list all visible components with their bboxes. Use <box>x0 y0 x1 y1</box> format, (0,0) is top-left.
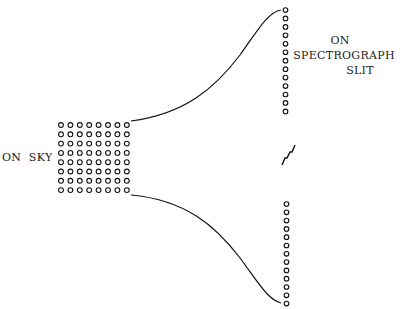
sky-fiber-circle <box>96 151 101 156</box>
slit-fiber-circle <box>283 58 288 63</box>
sky-fiber-circle <box>87 178 92 183</box>
sky-fiber-circle <box>106 160 111 165</box>
sky-fiber-circle <box>106 123 111 128</box>
upper-fiber-bundle-curve <box>131 10 281 121</box>
slit-fiber-circle <box>284 268 289 273</box>
sky-fiber-circle <box>77 188 82 193</box>
slit-fiber-circle <box>283 50 288 55</box>
slit-fiber-circle <box>284 210 289 215</box>
slit-fiber-circle <box>284 235 289 240</box>
sky-fiber-grid <box>59 123 130 193</box>
break-mark <box>282 145 295 165</box>
slit-fiber-circle <box>283 42 288 47</box>
sky-fiber-circle <box>68 160 73 165</box>
sky-fiber-circle <box>124 132 129 137</box>
slit-fiber-circle <box>284 276 289 281</box>
slit-fiber-circle <box>283 92 288 97</box>
sky-fiber-circle <box>96 178 101 183</box>
sky-fiber-circle <box>59 151 64 156</box>
sky-fiber-circle <box>59 123 64 128</box>
slit-fiber-circle <box>283 101 288 106</box>
sky-fiber-circle <box>124 169 129 174</box>
sky-fiber-circle <box>115 188 120 193</box>
sky-fiber-circle <box>124 141 129 146</box>
sky-fiber-circle <box>106 141 111 146</box>
sky-fiber-circle <box>77 132 82 137</box>
sky-fiber-circle <box>115 160 120 165</box>
sky-fiber-circle <box>77 141 82 146</box>
sky-fiber-circle <box>124 151 129 156</box>
slit-fibers-lower <box>284 202 289 306</box>
sky-fiber-circle <box>87 132 92 137</box>
sky-fiber-circle <box>124 178 129 183</box>
sky-fiber-circle <box>77 123 82 128</box>
sky-fiber-circle <box>106 169 111 174</box>
sky-fiber-circle <box>96 132 101 137</box>
sky-fiber-circle <box>96 160 101 165</box>
slit-fiber-circle <box>284 301 289 306</box>
sky-fiber-circle <box>77 178 82 183</box>
sky-fiber-circle <box>115 123 120 128</box>
slit-fiber-circle <box>283 84 288 89</box>
sky-fiber-circle <box>68 132 73 137</box>
sky-fiber-circle <box>106 188 111 193</box>
sky-fiber-circle <box>77 169 82 174</box>
sky-fiber-circle <box>115 169 120 174</box>
sky-fiber-circle <box>124 160 129 165</box>
sky-fiber-circle <box>96 169 101 174</box>
slit-label-line1: ON <box>330 34 349 47</box>
sky-fiber-circle <box>124 123 129 128</box>
slit-fiber-circle <box>283 75 288 80</box>
slit-fiber-circle <box>283 33 288 38</box>
sky-fiber-circle <box>59 188 64 193</box>
sky-fiber-circle <box>68 169 73 174</box>
sky-fiber-circle <box>68 151 73 156</box>
fiber-bundle-diagram: ON SKY ON SPECTROGRAPH SLIT <box>0 0 405 309</box>
sky-fiber-circle <box>96 123 101 128</box>
slit-fibers-upper <box>283 8 288 114</box>
sky-fiber-circle <box>96 141 101 146</box>
sky-fiber-circle <box>87 169 92 174</box>
slit-fiber-circle <box>283 67 288 72</box>
on-sky-label: ON SKY <box>2 151 53 164</box>
sky-fiber-circle <box>87 141 92 146</box>
sky-fiber-circle <box>59 132 64 137</box>
sky-fiber-circle <box>68 123 73 128</box>
sky-fiber-circle <box>77 160 82 165</box>
slit-fiber-circle <box>284 260 289 265</box>
sky-fiber-circle <box>115 132 120 137</box>
sky-fiber-circle <box>106 178 111 183</box>
slit-fiber-circle <box>283 8 288 13</box>
sky-fiber-circle <box>115 141 120 146</box>
sky-fiber-circle <box>115 178 120 183</box>
slit-fiber-circle <box>284 218 289 223</box>
sky-fiber-circle <box>87 160 92 165</box>
sky-fiber-circle <box>115 151 120 156</box>
sky-fiber-circle <box>68 188 73 193</box>
sky-fiber-circle <box>87 151 92 156</box>
slit-fiber-circle <box>283 25 288 30</box>
sky-fiber-circle <box>106 132 111 137</box>
sky-fiber-circle <box>59 169 64 174</box>
slit-fiber-circle <box>284 202 289 207</box>
sky-fiber-circle <box>68 178 73 183</box>
sky-fiber-circle <box>87 188 92 193</box>
lower-fiber-bundle-curve <box>131 195 281 303</box>
slit-fiber-circle <box>284 285 289 290</box>
slit-fiber-circle <box>284 227 289 232</box>
slit-fiber-circle <box>283 16 288 21</box>
sky-fiber-circle <box>59 178 64 183</box>
sky-fiber-circle <box>106 151 111 156</box>
sky-fiber-circle <box>77 151 82 156</box>
sky-fiber-circle <box>87 123 92 128</box>
sky-fiber-circle <box>59 160 64 165</box>
slit-fiber-circle <box>284 293 289 298</box>
slit-label-line2: SPECTROGRAPH <box>293 49 395 62</box>
slit-label-line3: SLIT <box>346 64 374 77</box>
sky-fiber-circle <box>68 141 73 146</box>
sky-fiber-circle <box>124 188 129 193</box>
slit-fiber-circle <box>284 243 289 248</box>
sky-fiber-circle <box>96 188 101 193</box>
slit-fiber-circle <box>284 252 289 257</box>
slit-fiber-circle <box>283 109 288 114</box>
